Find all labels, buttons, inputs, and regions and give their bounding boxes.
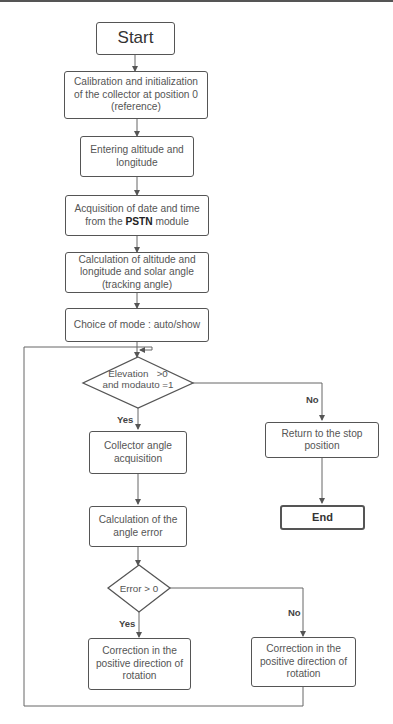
decision1-line2: and modauto =1 [95,379,181,390]
node-angle-error: Calculation of the angle error [89,506,187,547]
node-collector-angle: Collector angle acquisition [89,431,187,474]
node-calibration: Calibration and initialization of the co… [64,71,208,119]
edge-label-yes-1: Yes [117,414,133,425]
node-calculation: Calculation of altitude and longitude an… [65,252,209,293]
decision1-line1: Elevation >0 [95,368,181,379]
node-correction-yes: Correction in the positive direction of … [88,638,191,690]
node-correction-no: Correction in the positive direction of … [251,637,356,687]
edge-label-no-1: No [306,394,319,405]
acquisition-text-bold: PSTN [125,216,152,227]
decision1-text: Elevation >0 and modauto =1 [95,368,181,390]
node-entering: Entering altitude and longitude [80,136,194,177]
node-return-stop: Return to the stop position [265,422,379,458]
edge-label-no-2: No [288,607,301,618]
node-start: Start [96,22,175,55]
acquisition-text-post: module [153,216,189,227]
node-acquisition: Acquisition of date and time from the PS… [65,195,209,236]
node-choice: Choice of mode : auto/show [65,308,209,342]
decision2-text: Error > 0 [110,583,168,594]
edge-label-yes-2: Yes [119,618,135,629]
node-end: End [280,505,365,530]
